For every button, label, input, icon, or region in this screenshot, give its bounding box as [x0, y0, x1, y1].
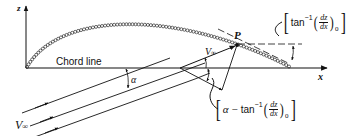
net-angle-arc: [207, 69, 209, 81]
camber-bead: [88, 27, 91, 30]
slope-den: dx: [320, 23, 328, 31]
camber-bead: [213, 35, 216, 38]
angle-lparen: (: [263, 101, 267, 118]
freestream-arrow-1: [35, 103, 48, 108]
freestream-arrow-3: [45, 128, 58, 133]
slope-leader: [275, 22, 282, 36]
camber-bead: [186, 29, 189, 32]
local-alpha-arc: [205, 58, 206, 68]
camber-bead: [74, 30, 77, 33]
camber-bead: [83, 28, 86, 31]
x-axis-label: x: [318, 72, 323, 82]
camber-bead: [149, 24, 152, 27]
alpha-arc: [126, 69, 128, 88]
camber-bead: [195, 31, 198, 34]
camber-bead: [152, 24, 155, 27]
camber-bead: [119, 23, 122, 26]
angle-bracket-label: [ α − tan−1 ( dzdx )0 ]: [214, 96, 297, 122]
camber-bead: [192, 30, 195, 33]
camber-bead: [65, 33, 68, 36]
camber-bead: [128, 23, 131, 26]
local-freestream-label: V∞: [205, 47, 216, 57]
camber-bead: [80, 29, 83, 32]
camber-bead: [204, 33, 207, 36]
camber-bead: [216, 36, 219, 39]
camber-bead: [228, 40, 231, 43]
angle-alpha: α: [223, 103, 229, 115]
angle-rparen: ): [280, 101, 284, 118]
camber-bead: [134, 23, 137, 26]
camber-bead: [143, 23, 146, 26]
camber-bead: [140, 23, 143, 26]
point-p-label: P: [234, 30, 241, 41]
alpha-label: α: [131, 75, 136, 85]
right-bracket: ]: [290, 96, 295, 122]
chord-line-label: Chord line: [56, 57, 102, 67]
slope-tan: tan: [291, 17, 305, 28]
camber-bead: [94, 25, 97, 28]
slope-sub: 0: [335, 25, 339, 33]
freestream-arrow-2: [40, 117, 53, 122]
camber-bead: [219, 37, 222, 40]
angle-tan: tan: [241, 104, 255, 115]
camber-bead: [189, 29, 192, 32]
camber-bead: [71, 31, 74, 34]
local-freestream-sub: ∞: [211, 49, 216, 57]
slope-lparen: (: [313, 14, 317, 31]
camber-bead: [168, 26, 171, 29]
camber-bead: [98, 25, 101, 28]
camber-bead: [91, 26, 94, 29]
camber-bead: [198, 32, 201, 35]
camber-bead: [68, 32, 71, 35]
camber-bead: [122, 23, 125, 26]
camber-bead: [104, 24, 107, 27]
camber-bead: [101, 24, 104, 27]
inclined-vector: [180, 68, 222, 90]
freestream-label: V∞: [15, 119, 28, 131]
camber-bead: [222, 38, 225, 41]
left-bracket: [: [216, 96, 221, 122]
camber-bead: [146, 23, 149, 26]
camber-bead: [177, 27, 180, 30]
freestream-line-3: [32, 79, 195, 136]
camber-bead: [131, 23, 134, 26]
z-axis-label: z: [17, 4, 21, 13]
angle-sub: 0: [285, 112, 289, 120]
camber-bead: [110, 23, 113, 26]
camber-bead: [225, 39, 228, 42]
camber-bead: [285, 64, 288, 67]
camber-bead: [165, 25, 168, 28]
camber-bead: [86, 27, 89, 30]
angle-exp: −1: [255, 101, 263, 108]
camber-bead: [171, 26, 174, 29]
camber-bead: [231, 41, 234, 44]
freestream-line-2: [30, 63, 205, 126]
angle-fraction: dzdx: [269, 101, 278, 118]
camber-bead: [159, 25, 162, 28]
camber-bead: [137, 23, 140, 26]
camber-bead: [77, 29, 80, 32]
slope-bracket-label: [ tan−1 ( dzdx )0 ]: [282, 9, 347, 35]
camber-bead: [279, 61, 282, 64]
camber-bead: [113, 23, 116, 26]
camber-bead: [162, 25, 165, 28]
slope-rparen: ): [330, 14, 334, 31]
camber-bead: [155, 24, 158, 27]
camber-bead: [210, 35, 213, 38]
slope-exp: −1: [305, 14, 313, 21]
slope-angle-arc: [292, 46, 293, 60]
camber-bead: [183, 28, 186, 31]
slope-fraction: dzdx: [319, 14, 328, 31]
camber-bead: [125, 23, 128, 26]
left-bracket: [: [284, 9, 289, 35]
angle-minus: −: [231, 103, 237, 115]
camber-bead: [180, 28, 183, 31]
camber-bead: [207, 34, 210, 37]
right-bracket: ]: [340, 9, 345, 35]
angle-den: dx: [270, 110, 278, 118]
camber-bead: [107, 24, 110, 27]
camber-bead: [174, 27, 177, 30]
freestream-sub: ∞: [22, 122, 28, 131]
camber-bead: [116, 23, 119, 26]
camber-bead: [201, 32, 204, 35]
